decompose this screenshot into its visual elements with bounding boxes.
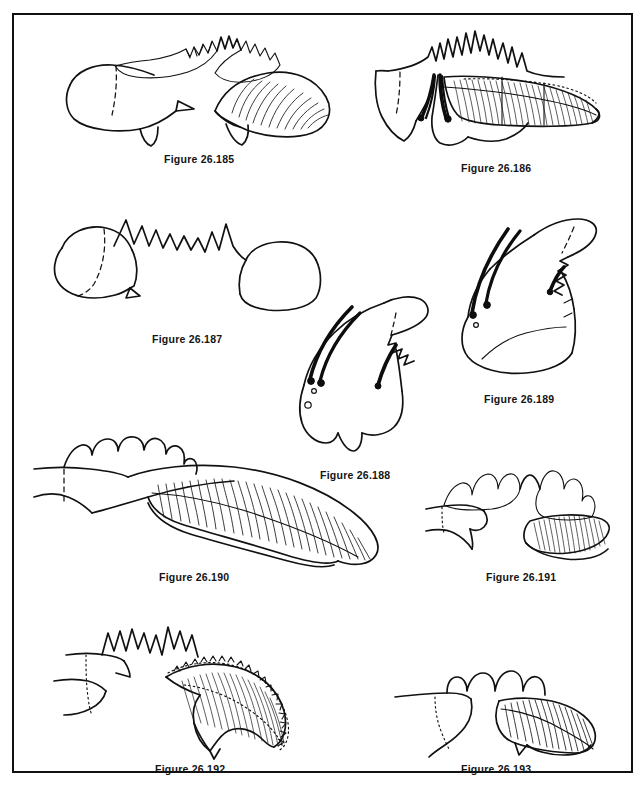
figure-26-193-drawing [389,653,619,763]
figure-26-187-drawing [34,210,334,325]
illustration-plate: Figure 26.185 [0,0,643,789]
figure-26-192-drawing [44,617,324,762]
figure-26-190-drawing [24,427,394,575]
figure-26-185-caption: Figure 26.185 [164,153,234,165]
figure-26-185-drawing [54,27,344,147]
figure-26-189-drawing [454,213,614,383]
figure-26-186-drawing [374,25,634,155]
figure-26-187-caption: Figure 26.187 [152,333,222,345]
plate-border: Figure 26.185 [12,13,633,773]
figure-26-191-caption: Figure 26.191 [486,571,556,583]
figure-26-192-caption: Figure 26.192 [155,763,225,775]
figure-26-193-caption: Figure 26.193 [461,763,531,775]
figure-26-191-drawing [422,461,612,571]
figure-26-186-caption: Figure 26.186 [461,162,531,174]
figure-26-190-caption: Figure 26.190 [159,571,229,583]
figure-26-189-caption: Figure 26.189 [484,393,554,405]
